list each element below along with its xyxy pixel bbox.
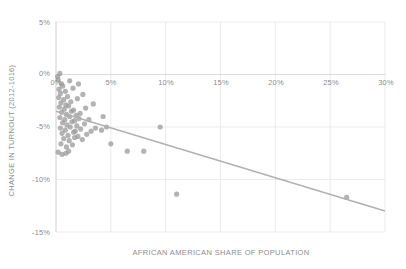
data-points xyxy=(55,71,349,200)
y-tick-label-0: 5% xyxy=(18,18,50,27)
scatter-point xyxy=(58,125,63,130)
scatter-point xyxy=(91,101,96,106)
scatter-point xyxy=(58,141,63,146)
scatter-point xyxy=(88,129,93,134)
plot-canvas xyxy=(0,0,406,269)
scatter-point xyxy=(61,136,66,141)
y-tick-label-4: -15% xyxy=(18,228,50,237)
scatter-point xyxy=(66,149,71,154)
scatter-point xyxy=(101,114,106,119)
scatter-point xyxy=(56,95,61,100)
scatter-point xyxy=(63,89,68,94)
y-axis-title: CHANGE IN TURNOUT (2012-1016) xyxy=(7,56,16,206)
scatter-point xyxy=(158,124,163,129)
scatter-point xyxy=(70,142,75,147)
scatter-point xyxy=(125,149,130,154)
scatter-point xyxy=(75,96,80,101)
scatter-point xyxy=(66,103,71,108)
scatter-point xyxy=(69,119,74,124)
scatter-point xyxy=(57,115,62,120)
scatter-chart: 5% 0% -5% -10% -15% 0% 5% 10% 15% 20% 25… xyxy=(0,0,406,269)
scatter-point xyxy=(67,138,72,143)
scatter-point xyxy=(82,121,87,126)
x-tick-label-6: 30% xyxy=(371,78,401,87)
scatter-point xyxy=(65,133,70,138)
x-tick-label-3: 15% xyxy=(206,78,236,87)
scatter-point xyxy=(93,125,98,130)
scatter-point xyxy=(71,130,76,135)
scatter-point xyxy=(70,86,75,91)
scatter-point xyxy=(80,92,85,97)
scatter-point xyxy=(99,128,104,133)
y-tick-label-1: 0% xyxy=(18,69,50,78)
scatter-point xyxy=(108,141,113,146)
scatter-point xyxy=(57,71,62,76)
x-tick-label-2: 10% xyxy=(151,78,181,87)
scatter-point xyxy=(68,124,73,129)
scatter-point xyxy=(80,137,85,142)
scatter-point xyxy=(69,109,74,114)
scatter-point xyxy=(65,94,70,99)
scatter-point xyxy=(141,149,146,154)
scatter-point xyxy=(83,106,88,111)
y-tick-label-3: -10% xyxy=(18,175,50,184)
x-tick-label-0: 0% xyxy=(41,78,71,87)
scatter-point xyxy=(78,127,83,132)
scatter-point xyxy=(84,132,89,137)
y-tick-label-2: -5% xyxy=(18,122,50,131)
scatter-point xyxy=(76,81,81,86)
x-tick-label-4: 20% xyxy=(261,78,291,87)
scatter-point xyxy=(59,131,64,136)
x-axis-title: AFRICAN AMERICAN SHARE OF POPULATION xyxy=(56,248,386,257)
scatter-point xyxy=(174,192,179,197)
scatter-point xyxy=(72,135,77,140)
x-tick-label-1: 5% xyxy=(96,78,126,87)
scatter-point xyxy=(78,111,83,116)
y-axis-title-container: CHANGE IN TURNOUT (2012-1016) xyxy=(0,0,16,269)
scatter-point xyxy=(57,104,62,109)
x-tick-label-5: 25% xyxy=(316,78,346,87)
